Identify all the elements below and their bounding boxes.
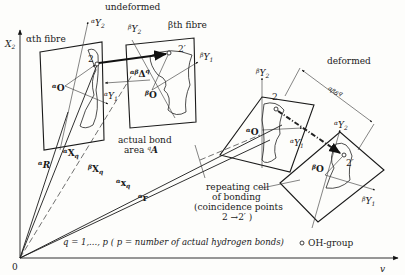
beta-O-label: βO (144, 89, 157, 100)
vector-beta-Xq (20, 75, 132, 258)
deformed-beta-O-to-2prime (325, 157, 342, 175)
oh-point-2prime-deformed (342, 153, 346, 157)
point-2-label: 2 (88, 54, 94, 64)
label-alpha-R: αR (38, 159, 51, 170)
delta-extension-2 (358, 124, 374, 150)
beta-fibre-label: βth fibre (168, 20, 207, 30)
deformed-alpha-O-label: αO (246, 126, 259, 137)
undeformed-alpha-fibre: αth fibre 2 αO αY2 αY1 (26, 17, 118, 150)
beta-Y1-axis (152, 62, 198, 90)
deformed-alpha-section (220, 97, 314, 172)
deformed-alpha-Y2-label: αY2 (334, 119, 348, 131)
alpha-Y2-label: αY2 (91, 17, 105, 29)
oh-point-2-deformed (274, 107, 278, 111)
oh-group-legend-label: OH-group (308, 238, 354, 248)
oh-point-2prime (167, 51, 171, 55)
undeformed-title: undeformed (105, 2, 161, 12)
delta-label: αβΔq (130, 67, 150, 79)
delta-deformed-label: αβδq (326, 82, 345, 100)
origin-label: 0 (12, 262, 18, 272)
alpha-fibre-label: αth fibre (26, 34, 66, 44)
oh-point-2 (95, 62, 99, 66)
label-alpha-xq: αxq (116, 177, 130, 190)
diagram-svg: X2 v 0 αR αXq βXq αxq αr undeformed defo… (0, 0, 405, 275)
deformed-beta-fibre: 2′ βO αY2 βY1 (280, 119, 384, 228)
alpha-O-label: αO (52, 82, 65, 93)
deformed-alpha-dashed (200, 135, 260, 160)
deformed-beta-Y1-label: βY1 (361, 195, 375, 207)
beta-Y1-label: βY1 (199, 51, 213, 63)
vector-alpha-Xq (20, 65, 97, 258)
oh-group-legend-icon (300, 241, 304, 245)
deformed-beta-Y2-label: βY2 (255, 67, 269, 79)
v-axis-label: v (380, 264, 385, 274)
label-alpha-Xq: αXq (63, 147, 79, 160)
point-2-deformed-label: 2 (272, 92, 278, 102)
point-2prime-deformed-label: 2′ (346, 158, 354, 168)
label-beta-Xq: βXq (87, 163, 103, 176)
deformed-alpha-fibre: 2 αO βY2 αY1 (200, 67, 314, 172)
alpha-Y1-label: αY1 (104, 90, 118, 102)
point-2prime-label: 2′ (178, 44, 186, 54)
repeat-line1: repeating cell (206, 182, 269, 192)
deformed-alpha-Y2-axis (312, 130, 340, 228)
bond-area-line2: area qA (124, 144, 158, 155)
deformed-title: deformed (327, 56, 371, 66)
beta-fibre-bond-area (150, 51, 192, 115)
bond-area-line1: actual bond (118, 135, 172, 145)
x2-axis-label: X2 (4, 39, 15, 50)
repeating-cell-label: repeating cell of bonding (coincidence p… (194, 145, 300, 222)
bond-vector-deformed (278, 111, 340, 153)
vector-alpha-R (20, 112, 68, 258)
beta-Y2-label: βY2 (127, 23, 141, 35)
bond-vector-undeformed (99, 54, 166, 63)
deformed-beta-O-label: βO (311, 163, 324, 174)
alpha-Y1-axis (65, 86, 108, 104)
fibre-bond-diagram: X2 v 0 αR αXq βXq αxq αr undeformed defo… (0, 0, 405, 275)
delta-deformed-line (302, 70, 372, 122)
deformed-alpha-Y1-axis (262, 128, 302, 130)
q-range-text: q = 1,..., p ( p = number of actual hydr… (63, 237, 284, 247)
repeat-line2: of bonding (212, 192, 261, 202)
delta-extension-1 (285, 68, 300, 96)
repeat-line3: (coincidence points (194, 202, 283, 212)
alpha-O-to-2 (65, 65, 95, 86)
repeat-line4: 2 →2′ ) (222, 212, 252, 222)
